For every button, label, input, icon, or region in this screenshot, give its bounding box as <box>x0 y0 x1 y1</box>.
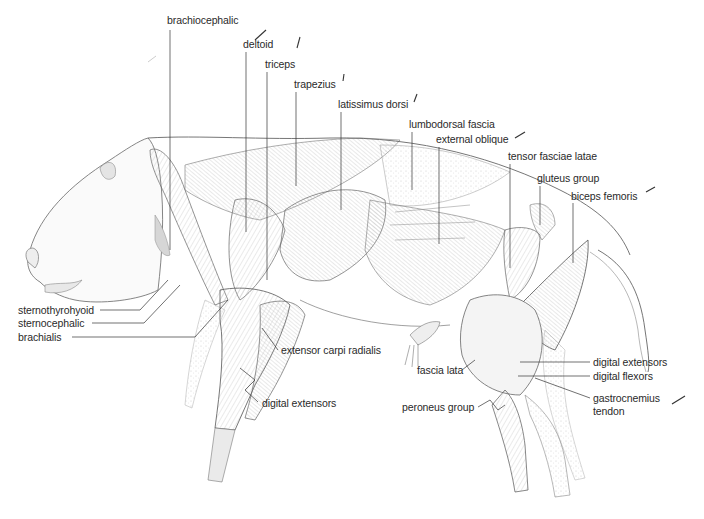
label-gastrocnemius: gastrocnemius <box>593 392 660 404</box>
label-brachiocephalic: brachiocephalic <box>167 14 238 26</box>
label-external-oblique: external oblique <box>436 133 509 145</box>
neck-muscles <box>150 138 400 305</box>
label-brachialis: brachialis <box>18 331 61 343</box>
label-trapezius: trapezius <box>294 78 336 90</box>
near-forelimb <box>208 288 305 482</box>
head <box>26 138 163 302</box>
label-deltoid: deltoid <box>243 38 273 50</box>
navel-cord <box>405 322 440 367</box>
label-peroneus-group: peroneus group <box>402 401 474 413</box>
label-extensor-carpi-radialis: extensor carpi radialis <box>281 344 381 356</box>
label-biceps-femoris: biceps femoris <box>571 190 637 202</box>
label-digital-extensors-fore: digital extensors <box>262 397 336 409</box>
label-triceps: triceps <box>265 58 295 70</box>
label-digital-flexors: digital flexors <box>593 370 653 382</box>
calf-anatomy-illustration <box>0 0 704 519</box>
label-lumbodorsal-fascia: lumbodorsal fascia <box>409 118 495 130</box>
label-sternothyrohyoid: sternothyrohyoid <box>18 304 94 316</box>
label-sternocephalic: sternocephalic <box>18 317 84 329</box>
label-tendon: tendon <box>593 405 625 417</box>
label-gluteus-group: gluteus group <box>537 172 599 184</box>
label-fascia-lata: fascia lata <box>417 364 463 376</box>
tail <box>590 250 649 372</box>
label-latissimus-dorsi: latissimus dorsi <box>338 98 408 110</box>
label-digital-extensors-hind: digital extensors <box>593 356 667 368</box>
label-tensor-fasciae-latae: tensor fasciae latae <box>508 150 597 162</box>
